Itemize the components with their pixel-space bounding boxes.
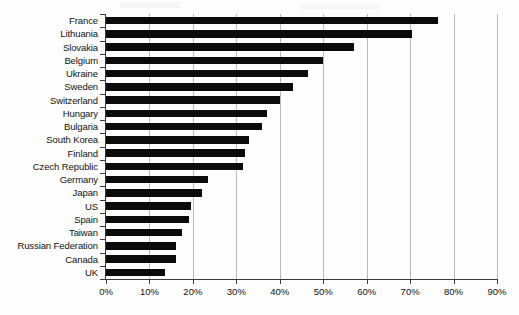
x-tick-20% (193, 279, 194, 284)
x-axis-tick-label: 10% (140, 286, 159, 298)
bar-row: Taiwan (0, 226, 519, 239)
bar-row: Bulgaria (0, 120, 519, 133)
bar (106, 83, 293, 91)
category-label: Japan (73, 186, 98, 199)
x-tick-0% (106, 279, 107, 284)
scan-noise (120, 2, 180, 8)
category-label: Canada (65, 253, 98, 266)
category-label: South Korea (46, 133, 98, 146)
bar (106, 96, 280, 104)
bar (106, 123, 262, 131)
bar-row: Switzerland (0, 94, 519, 107)
bar-row: France (0, 14, 519, 27)
bar (106, 17, 438, 25)
category-label: US (85, 200, 98, 213)
bar (106, 242, 176, 250)
category-label: Russian Federation (17, 239, 98, 252)
bar (106, 202, 191, 210)
x-tick-60% (367, 279, 368, 284)
bar-row: UK (0, 266, 519, 279)
bar (106, 163, 243, 171)
category-label: Lithuania (60, 27, 98, 40)
category-label: Ukraine (66, 67, 98, 80)
category-label: Belgium (64, 54, 98, 67)
bar-row: Slovakia (0, 41, 519, 54)
category-label: Slovakia (63, 41, 98, 54)
category-label: Spain (74, 213, 98, 226)
bar-row: South Korea (0, 133, 519, 146)
bar-row: Hungary (0, 107, 519, 120)
bar (106, 176, 208, 184)
x-axis-tick-label: 50% (314, 286, 333, 298)
x-tick-40% (280, 279, 281, 284)
scan-noise (300, 4, 380, 9)
category-label: Czech Republic (33, 160, 98, 173)
x-axis-tick-label: 70% (401, 286, 420, 298)
bar (106, 149, 245, 157)
bar-row: Lithuania (0, 27, 519, 40)
category-label: Germany (60, 173, 98, 186)
category-label: Hungary (63, 107, 98, 120)
bar-row: Canada (0, 253, 519, 266)
x-axis-tick-label: 80% (444, 286, 463, 298)
bar-row: US (0, 200, 519, 213)
x-tick-50% (323, 279, 324, 284)
bar-row: Germany (0, 173, 519, 186)
bar (106, 216, 189, 224)
bar-chart: FranceLithuaniaSlovakiaBelgiumUkraineSwe… (0, 0, 519, 315)
x-axis-labels: 0%10%20%30%40%50%60%70%80%90% (0, 286, 519, 300)
bar-row: Belgium (0, 54, 519, 67)
bar-row: Ukraine (0, 67, 519, 80)
y-tick (100, 279, 105, 280)
category-label: UK (85, 266, 98, 279)
category-label: Bulgaria (64, 120, 98, 133)
bar (106, 110, 267, 118)
category-label: Taiwan (69, 226, 98, 239)
x-axis-tick-label: 20% (183, 286, 202, 298)
bar-rows: FranceLithuaniaSlovakiaBelgiumUkraineSwe… (0, 14, 519, 279)
category-label: Switzerland (50, 94, 98, 107)
bar-row: Czech Republic (0, 160, 519, 173)
category-label: Sweden (64, 80, 98, 93)
x-axis-tick-label: 30% (227, 286, 246, 298)
x-tick-90% (497, 279, 498, 284)
bar-row: Japan (0, 186, 519, 199)
x-axis-tick-label: 40% (270, 286, 289, 298)
x-axis-line (106, 279, 497, 280)
bar (106, 70, 308, 78)
x-tick-10% (149, 279, 150, 284)
bar (106, 57, 323, 65)
bar-row: Spain (0, 213, 519, 226)
bar (106, 229, 182, 237)
category-label: France (69, 14, 98, 27)
x-axis-tick-label: 60% (357, 286, 376, 298)
x-axis-tick-label: 90% (487, 286, 506, 298)
x-tick-80% (454, 279, 455, 284)
bar (106, 43, 354, 51)
x-tick-30% (236, 279, 237, 284)
bar-row: Russian Federation (0, 239, 519, 252)
bar (106, 255, 176, 263)
bar (106, 30, 412, 38)
bar (106, 269, 165, 277)
bar-row: Sweden (0, 80, 519, 93)
bar-row: Finland (0, 147, 519, 160)
x-axis-tick-label: 0% (99, 286, 113, 298)
category-label: Finland (68, 147, 98, 160)
bar (106, 136, 249, 144)
x-tick-70% (410, 279, 411, 284)
bar (106, 189, 202, 197)
